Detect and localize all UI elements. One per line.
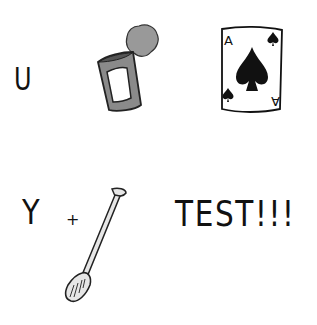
letter-y: Y [22,192,41,232]
paddle-oar-icon [60,185,135,310]
open-tin-can-icon [95,22,165,117]
word-test: TEST!!! [175,193,295,234]
ace-of-spades-card-icon: A A [218,25,286,115]
card-rank-bottom: A [271,94,280,109]
card-rank-top: A [224,33,233,48]
letter-u: U [14,60,32,98]
